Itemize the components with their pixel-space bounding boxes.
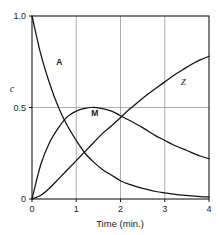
y-tick-label: 0 bbox=[21, 194, 26, 204]
kinetics-line-chart: 01234 00.51.0 AMZ Time (min.) c bbox=[0, 0, 220, 235]
y-axis-title: c bbox=[10, 83, 15, 94]
x-tick-label: 3 bbox=[162, 204, 167, 214]
y-tick-label: 0.5 bbox=[13, 103, 26, 113]
x-tick-label: 1 bbox=[74, 204, 79, 214]
x-tick-label: 4 bbox=[206, 204, 211, 214]
x-axis-title: Time (min.) bbox=[96, 218, 144, 229]
chart-figure: 01234 00.51.0 AMZ Time (min.) c bbox=[0, 0, 220, 235]
y-tick-label: 1.0 bbox=[13, 11, 26, 21]
x-tick-label: 0 bbox=[29, 204, 34, 214]
series-label-m: M bbox=[91, 108, 98, 118]
x-tick-label: 2 bbox=[118, 204, 123, 214]
series-label-a: A bbox=[56, 57, 62, 67]
chart-background bbox=[0, 0, 220, 235]
